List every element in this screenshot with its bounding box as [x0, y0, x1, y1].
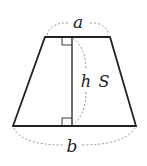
label-b: b	[67, 136, 78, 156]
trapezoid-shape	[13, 37, 136, 126]
label-h: h	[81, 72, 91, 91]
trapezoid-diagram: a b h S	[0, 0, 147, 166]
right-angle-bottom	[62, 118, 72, 126]
label-S: S	[99, 72, 110, 91]
right-angle-top	[62, 37, 72, 45]
label-a: a	[73, 12, 83, 32]
